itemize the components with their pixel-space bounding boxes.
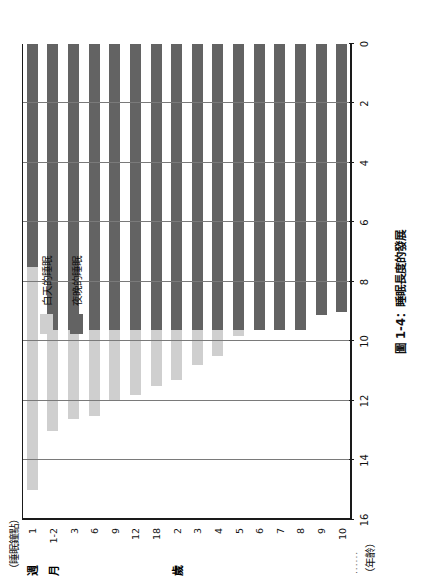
tick-2: [349, 103, 354, 104]
bar-segment-night: [171, 44, 182, 330]
group-label-月: 月: [45, 565, 61, 576]
bar-segment-night: [233, 44, 244, 330]
bar-7: [274, 44, 285, 330]
tick-label-14: 14: [359, 454, 370, 467]
tick-label-4: 4: [359, 160, 370, 166]
bar-segment-day: [171, 330, 182, 381]
legend-label-day: 白天的睡眠: [39, 256, 54, 306]
category-label-1: 1: [27, 528, 38, 554]
bar-segment-night: [130, 44, 141, 330]
value-axis-line: [350, 44, 352, 520]
category-label-1-2: 1-2: [47, 528, 58, 554]
category-label-12: 12: [130, 528, 141, 554]
category-label-6: 6: [89, 528, 100, 554]
bar-segment-day: [89, 330, 100, 416]
category-label-6: 6: [254, 528, 265, 554]
category-label-3: 3: [68, 528, 79, 554]
legend-item-night: 夜晚的睡眠: [66, 214, 86, 334]
tick-0: [349, 43, 354, 44]
bar-segment-night: [254, 44, 265, 330]
legend: 白天的睡眠 夜晚的睡眠: [36, 214, 96, 334]
bar-segment-day: [47, 330, 58, 431]
figure: （睡眠鐘點） ······ 11-236912182345678910 0246…: [0, 0, 423, 584]
tick-label-16: 16: [359, 514, 370, 527]
bar-4: [212, 44, 223, 356]
legend-item-day: 白天的睡眠: [36, 214, 56, 334]
category-label-10: 10: [336, 528, 347, 554]
bar-12: [130, 44, 141, 395]
tick-14: [349, 460, 354, 461]
group-label-週: 週: [24, 565, 40, 576]
bar-segment-day: [192, 330, 203, 366]
tick-label-8: 8: [359, 279, 370, 285]
category-axis-line: [22, 519, 352, 521]
gridline-10: [22, 341, 352, 342]
tick-16: [349, 519, 354, 520]
bar-8: [295, 44, 306, 330]
bar-segment-day: [212, 330, 223, 357]
tick-label-6: 6: [359, 219, 370, 225]
bar-segment-night: [316, 44, 327, 315]
legend-swatch-night: [70, 314, 83, 334]
category-label-7: 7: [274, 528, 285, 554]
bar-9: [109, 44, 120, 401]
value-axis-title: （睡眠鐘點）: [6, 514, 21, 574]
bar-segment-night: [192, 44, 203, 330]
bar-segment-night: [212, 44, 223, 330]
bar-segment-night: [295, 44, 306, 330]
gridline-2: [22, 103, 352, 104]
bar-5: [233, 44, 244, 336]
bar-2: [171, 44, 182, 380]
tick-label-10: 10: [359, 335, 370, 348]
tick-label-0: 0: [359, 41, 370, 47]
tick-label-12: 12: [359, 395, 370, 408]
category-label-5: 5: [233, 528, 244, 554]
legend-swatch-day: [40, 314, 53, 334]
tick-10: [349, 341, 354, 342]
bar-segment-night: [151, 44, 162, 330]
axis-leader-dots: ······: [352, 551, 362, 574]
bar-9: [316, 44, 327, 315]
bar-segment-day: [233, 330, 244, 336]
plot-top-rule: [22, 44, 23, 520]
bar-segment-night: [109, 44, 120, 330]
bar-10: [336, 44, 347, 312]
rotated-figure-stage: （睡眠鐘點） ······ 11-236912182345678910 0246…: [0, 0, 423, 584]
tick-6: [349, 222, 354, 223]
category-label-18: 18: [151, 528, 162, 554]
category-label-4: 4: [212, 528, 223, 554]
category-axis-title: （年齡）: [362, 538, 377, 578]
category-label-9: 9: [109, 528, 120, 554]
tick-label-2: 2: [359, 100, 370, 106]
tick-12: [349, 400, 354, 401]
gridline-4: [22, 162, 352, 163]
bar-segment-day: [130, 330, 141, 395]
category-label-3: 3: [192, 528, 203, 554]
bar-segment-day: [68, 330, 79, 419]
gridline-12: [22, 400, 352, 401]
bar-18: [151, 44, 162, 386]
tick-8: [349, 281, 354, 282]
category-label-8: 8: [295, 528, 306, 554]
category-label-9: 9: [316, 528, 327, 554]
bar-3: [192, 44, 203, 365]
bar-6: [254, 44, 265, 330]
gridline-14: [22, 460, 352, 461]
bar-segment-day: [151, 330, 162, 387]
bar-segment-night: [336, 44, 347, 312]
legend-label-night: 夜晚的睡眠: [69, 256, 84, 306]
tick-4: [349, 162, 354, 163]
category-label-2: 2: [171, 528, 182, 554]
bar-segment-night: [274, 44, 285, 330]
figure-caption: 圖 1-4：睡眠長度的發展: [392, 230, 408, 354]
group-label-歲: 歲: [169, 565, 185, 576]
